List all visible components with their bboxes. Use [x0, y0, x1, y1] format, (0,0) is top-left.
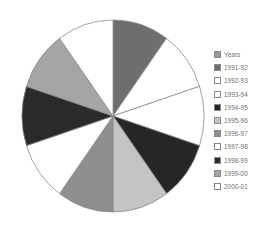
- pie-chart-figure: Years1991-921992-931993-941994-951995-96…: [0, 0, 274, 239]
- legend-swatch-icon: [214, 77, 221, 84]
- chart-legend: Years1991-921992-931993-941994-951995-96…: [214, 48, 274, 193]
- legend-item[interactable]: 2000-01: [214, 180, 274, 193]
- legend-item[interactable]: 1995-96: [214, 114, 274, 127]
- legend-item[interactable]: 1999-00: [214, 167, 274, 180]
- legend-label: 1998-99: [224, 157, 248, 164]
- legend-swatch-icon: [214, 157, 221, 164]
- legend-swatch-icon: [214, 91, 221, 98]
- legend-item[interactable]: 1993-94: [214, 88, 274, 101]
- legend-label: 1992-93: [224, 77, 248, 84]
- legend-label: 1996-97: [224, 130, 248, 137]
- pie-slice-group: [22, 20, 204, 212]
- legend-label: 2000-01: [224, 183, 248, 190]
- legend-item[interactable]: 1997-98: [214, 140, 274, 153]
- legend-label: 1991-92: [224, 64, 248, 71]
- legend-label: 1999-00: [224, 170, 248, 177]
- legend-swatch-icon: [214, 183, 221, 190]
- legend-swatch-icon: [214, 130, 221, 137]
- legend-label: 1994-95: [224, 104, 248, 111]
- legend-item[interactable]: 1994-95: [214, 101, 274, 114]
- legend-swatch-icon: [214, 104, 221, 111]
- legend-swatch-icon: [214, 64, 221, 71]
- legend-label: 1997-98: [224, 143, 248, 150]
- legend-label: 1995-96: [224, 117, 248, 124]
- legend-swatch-icon: [214, 51, 221, 58]
- legend-item[interactable]: 1998-99: [214, 154, 274, 167]
- legend-label: Years: [224, 51, 240, 58]
- legend-swatch-icon: [214, 117, 221, 124]
- pie-chart-svg: [21, 19, 205, 213]
- legend-item[interactable]: 1996-97: [214, 127, 274, 140]
- pie-chart-plot-area: [21, 19, 205, 213]
- legend-swatch-icon: [214, 143, 221, 150]
- legend-label: 1993-94: [224, 91, 248, 98]
- legend-swatch-icon: [214, 170, 221, 177]
- legend-item[interactable]: 1991-92: [214, 61, 274, 74]
- legend-title-row: Years: [214, 48, 274, 61]
- legend-item[interactable]: 1992-93: [214, 74, 274, 87]
